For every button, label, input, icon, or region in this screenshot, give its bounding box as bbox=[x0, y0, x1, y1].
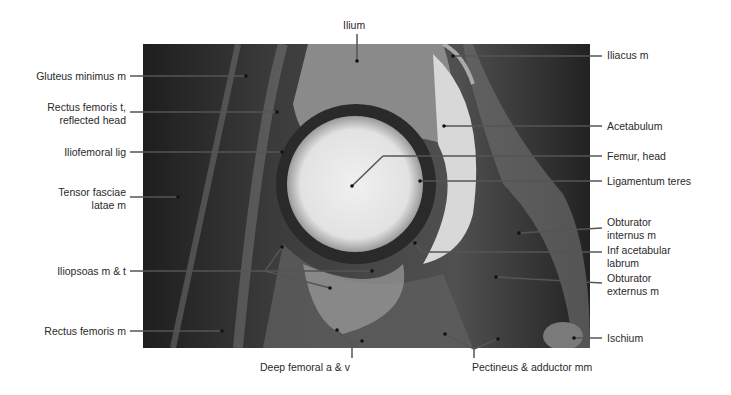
label-iliacus: Iliacus m bbox=[607, 49, 648, 62]
label-obturator-internus: Obturator internus m bbox=[607, 216, 656, 241]
label-gluteus-minimus: Gluteus minimus m bbox=[36, 70, 126, 83]
label-obturator-externus: Obturator externus m bbox=[607, 272, 659, 297]
label-femur-head: Femur, head bbox=[607, 150, 666, 163]
mri-scan-graphic bbox=[143, 44, 590, 348]
label-ischium: Ischium bbox=[607, 332, 643, 345]
label-pectineus-adductor: Pectineus & adductor mm bbox=[472, 361, 592, 374]
label-acetabulum: Acetabulum bbox=[607, 120, 662, 133]
label-ilium: Ilium bbox=[343, 19, 365, 32]
label-rectus-femoris-m: Rectus femoris m bbox=[44, 325, 126, 338]
anatomy-figure: Gluteus minimus m Rectus femoris t, refl… bbox=[0, 0, 731, 395]
label-inf-acetabular-labrum: Inf acetabular labrum bbox=[607, 244, 671, 269]
label-deep-femoral: Deep femoral a & v bbox=[260, 361, 350, 374]
label-tensor-fasciae-latae: Tensor fasciae latae m bbox=[58, 186, 126, 211]
label-rectus-femoris-tendon: Rectus femoris t, reflected head bbox=[47, 101, 126, 126]
label-ligamentum-teres: Ligamentum teres bbox=[607, 175, 691, 188]
label-iliofemoral-lig: Iliofemoral lig bbox=[64, 146, 126, 159]
mri-image bbox=[143, 44, 590, 348]
label-iliopsoas: Iliopsoas m & t bbox=[57, 265, 126, 278]
